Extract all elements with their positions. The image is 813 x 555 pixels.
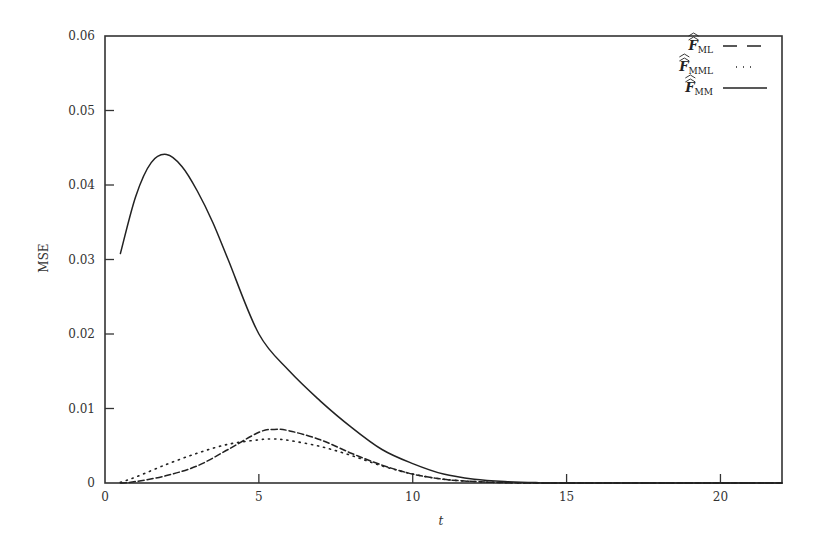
y-tick-label: 0.02: [68, 327, 95, 341]
x-tick-label: 5: [255, 490, 263, 504]
x-axis-label: t: [439, 514, 444, 528]
plot-frame: [105, 36, 782, 483]
legend-label: FML: [688, 38, 713, 55]
y-axis-ticks: 00.010.020.030.040.050.06: [68, 29, 114, 490]
x-axis-ticks: 05101520: [101, 474, 728, 504]
series-layer: [120, 154, 782, 483]
plot-border: [105, 36, 782, 483]
x-tick-label: 15: [559, 490, 574, 504]
y-axis-label: MSE: [37, 243, 51, 272]
legend-label: FMM: [684, 80, 713, 97]
hat-accent: [679, 54, 689, 57]
series-line-ml: [120, 429, 782, 483]
mse-line-chart: 00.010.020.030.040.050.06 05101520 FMLFM…: [0, 0, 813, 555]
x-tick-label: 20: [713, 490, 728, 504]
legend-entry-mml: FMML: [678, 54, 752, 76]
y-tick-label: 0.05: [68, 104, 95, 118]
series-line-mm: [120, 154, 782, 483]
y-tick-label: 0.01: [68, 402, 95, 416]
legend-entry-mm: FMM: [684, 75, 767, 97]
x-tick-label: 10: [405, 490, 420, 504]
y-tick-label: 0.06: [68, 29, 95, 43]
y-tick-label: 0.03: [68, 253, 95, 267]
y-tick-label: 0.04: [68, 178, 95, 192]
legend: FMLFMMLFMM: [678, 33, 767, 97]
legend-label: FMML: [678, 59, 713, 76]
x-tick-label: 0: [101, 490, 109, 504]
y-tick-label: 0: [87, 476, 95, 490]
